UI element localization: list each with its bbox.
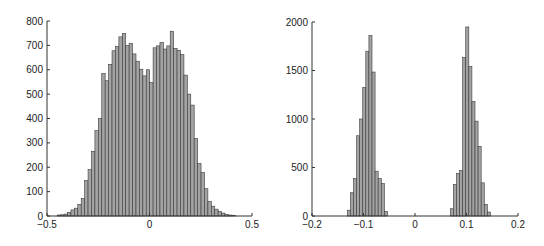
histogram-bar (129, 43, 132, 216)
histogram-bar (475, 121, 478, 216)
x-tick-label: 0 (147, 219, 153, 230)
histogram-bar (98, 119, 101, 217)
x-tick-label: 0.2 (511, 219, 525, 230)
histogram-bar (122, 34, 125, 216)
histogram-bar (453, 184, 456, 216)
x-tick-label: 0 (412, 219, 418, 230)
left-histogram: 0100200300400500600700800−0.500.5 (26, 16, 259, 231)
histogram-bar (481, 183, 484, 216)
histogram-bar (180, 55, 183, 216)
histogram-bar (478, 146, 481, 216)
histogram-bar (357, 136, 360, 216)
histogram-bar (68, 212, 71, 216)
x-tick-label: −0.5 (37, 219, 57, 230)
y-tick-label: 100 (26, 186, 43, 197)
histogram-bar (347, 210, 350, 216)
histogram-bar (78, 204, 81, 216)
histogram-bar (372, 72, 375, 216)
y-tick-label: 2000 (286, 17, 309, 28)
histogram-bar (157, 46, 160, 216)
histogram-bar (143, 76, 146, 216)
histogram-bar (466, 27, 469, 216)
histogram-bar (91, 151, 94, 216)
y-tick-label: 800 (26, 16, 43, 27)
histogram-bar (170, 31, 173, 216)
y-tick-label: 600 (26, 64, 43, 75)
histogram-bar (215, 209, 218, 216)
histogram-bar (126, 45, 129, 216)
histogram-bar (360, 119, 363, 216)
histogram-bar (384, 211, 387, 216)
y-tick-label: 700 (26, 40, 43, 51)
histogram-bar (484, 204, 487, 216)
histogram-bar (460, 171, 463, 216)
histogram-bar (81, 198, 84, 216)
x-tick-label: −0.1 (354, 219, 374, 230)
histogram-bar (201, 173, 204, 216)
histogram-bar (450, 209, 453, 216)
histogram-bar (150, 82, 153, 216)
histogram-bar (350, 193, 353, 216)
histogram-bar (363, 87, 366, 216)
x-tick-label: −0.2 (302, 219, 322, 230)
histogram-bar (105, 81, 108, 216)
histogram-bar (469, 66, 472, 216)
histogram-bar (191, 105, 194, 216)
y-tick-label: 500 (291, 162, 308, 173)
histogram-bar (139, 69, 142, 216)
histogram-bar (95, 131, 98, 216)
histogram-bar (487, 212, 490, 216)
histogram-bar (369, 36, 372, 216)
histogram-bar (136, 61, 139, 216)
histogram-bar (153, 48, 156, 216)
histogram-bar (160, 42, 163, 216)
histogram-bar (115, 47, 118, 216)
histogram-bar (204, 189, 207, 216)
right-histogram: 0500100015002000−0.2−0.100.10.2 (286, 17, 526, 231)
histogram-bar (119, 37, 122, 216)
histogram-bar (133, 54, 136, 216)
histogram-bar (208, 201, 211, 216)
histogram-bar (71, 210, 74, 216)
histogram-bar (198, 164, 201, 216)
histogram-bar (378, 179, 381, 216)
histogram-bar (375, 171, 378, 216)
histogram-bar (472, 102, 475, 216)
histogram-bar (187, 94, 190, 216)
histogram-bar (218, 212, 221, 216)
histogram-bar (381, 184, 384, 216)
histogram-bar (102, 73, 105, 216)
histogram-bar (353, 179, 356, 216)
histogram-bar (112, 51, 115, 216)
histogram-bar (85, 181, 88, 216)
x-tick-label: 0.5 (245, 219, 259, 230)
y-tick-label: 1000 (286, 114, 309, 125)
histogram-bar (167, 46, 170, 216)
y-tick-label: 400 (26, 113, 43, 124)
y-tick-label: 500 (26, 89, 43, 100)
histogram-bar (74, 208, 77, 216)
y-tick-label: 300 (26, 137, 43, 148)
histogram-bar (177, 50, 180, 216)
histogram-bar (463, 58, 466, 216)
histogram-bar (184, 75, 187, 216)
histogram-figure: 0100200300400500600700800−0.500.5 050010… (0, 0, 544, 246)
histogram-bar (174, 48, 177, 216)
histogram-bar (366, 51, 369, 216)
histogram-bar (146, 70, 149, 216)
histogram-bar (211, 206, 214, 216)
histogram-bar (194, 138, 197, 216)
x-tick-label: 0.1 (460, 219, 474, 230)
histogram-bar (456, 174, 459, 216)
histogram-bar (88, 170, 91, 216)
y-tick-label: 1500 (286, 65, 309, 76)
histogram-bar (163, 49, 166, 216)
y-tick-label: 200 (26, 162, 43, 173)
histogram-bar (109, 64, 112, 216)
